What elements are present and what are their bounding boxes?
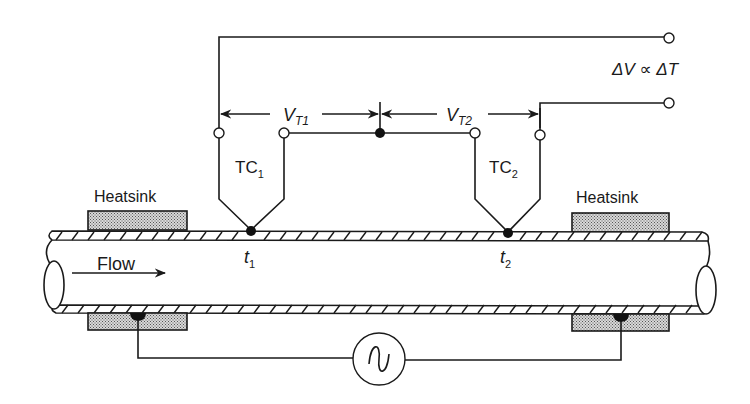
thermocouple-tc1: TC1 — [214, 128, 289, 230]
flow-label: Flow — [97, 254, 136, 274]
output-wire-bottom — [540, 103, 664, 128]
ac-heater-circuit — [138, 320, 621, 385]
tc1-terminal-right[interactable] — [279, 128, 289, 138]
heatsink-upper-left — [88, 211, 187, 230]
tc1-leads — [219, 138, 284, 230]
junction-t2 — [503, 228, 513, 238]
output-terminal-top[interactable] — [664, 33, 674, 43]
pipe-right-end — [706, 241, 710, 268]
thermocouple-tc2: TC2 — [470, 108, 545, 232]
tc1-terminal-left[interactable] — [214, 128, 224, 138]
tc1-label: TC1 — [235, 158, 264, 180]
tc2-terminal-left[interactable] — [470, 128, 480, 138]
pipe-left-end-ellipse — [44, 261, 64, 309]
interconnect-junction — [375, 128, 385, 138]
tc2-label: TC2 — [489, 158, 518, 180]
heatsink-left-label: Heatsink — [94, 188, 157, 205]
t1-label: t1 — [244, 247, 255, 270]
vt1-label: VT1 — [283, 105, 309, 128]
heatsink-right-label: Heatsink — [576, 189, 639, 206]
pipe-right-end-ellipse — [696, 266, 716, 314]
vt2-label: VT2 — [446, 105, 472, 128]
output-terminal-bottom[interactable] — [664, 98, 674, 108]
thermal-flowmeter-diagram: ΔV ∝ ΔT VT1 VT2 TC1 TC2 — [0, 0, 750, 404]
pipe-left-end — [46, 240, 52, 264]
heatsink-upper-right — [572, 213, 669, 232]
output-relation-label: ΔV ∝ ΔT — [611, 60, 680, 79]
tc2-terminal-right[interactable] — [535, 130, 545, 140]
t2-label: t2 — [500, 247, 511, 270]
junction-t1 — [246, 226, 256, 236]
